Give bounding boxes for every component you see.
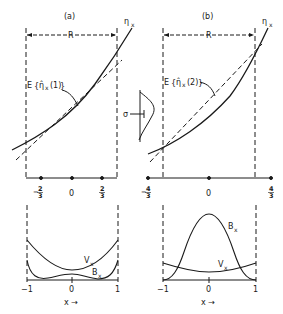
panel-b-estimate-hat: η̂	[176, 77, 181, 87]
panel-b-v-sub: x	[224, 264, 228, 271]
panel-a-top	[12, 28, 132, 180]
panel-b-bottom	[163, 205, 256, 283]
panel-a-estimate-line	[16, 60, 122, 160]
panel-a-range-label: R	[68, 31, 74, 40]
panel-b-brace-close: }	[198, 79, 203, 88]
panel-a-brace-close: }	[60, 82, 65, 91]
panel-a-xmin: −1	[21, 285, 33, 294]
panel-a-b-label: B	[92, 268, 98, 277]
panel-a-label: (a)	[64, 12, 75, 21]
panel-b-range-label: R	[206, 31, 212, 40]
panel-b-b-label: B	[228, 222, 234, 231]
panel-a-v-curve	[27, 240, 118, 270]
panel-b-estimate-prefix: E	[164, 78, 169, 87]
panel-b-eta-sub: x	[269, 21, 273, 28]
panel-b-true-curve	[148, 28, 268, 154]
panel-a-xmid: 0	[69, 285, 74, 294]
panel-a-xlabel: x →	[64, 298, 78, 307]
panel-a-eta-sub: x	[131, 21, 135, 28]
panel-a-tick-neg-den: 3	[38, 192, 43, 200]
panel-a-estimate-sub: x	[45, 84, 49, 91]
panel-a-bottom	[27, 205, 118, 283]
panel-b-b-curve	[163, 214, 256, 280]
sigma-label: σ	[123, 110, 128, 119]
panel-a-tick-pos-den: 3	[100, 192, 105, 200]
response-surface-diagram: (a) R η x E { η̂ x (1) } σ − 2 3 0 2 3 (…	[0, 0, 283, 314]
panel-a-v-sub: x	[90, 260, 94, 267]
panel-b-tick-pos-den: 3	[269, 192, 274, 200]
panel-b-tick-zero: 0	[206, 189, 211, 198]
panel-b-estimate-sub: x	[182, 81, 186, 88]
panel-a-eta-label: η	[124, 17, 129, 26]
panel-b-xmax: 1	[253, 285, 258, 294]
panel-b-xmid: 0	[206, 285, 211, 294]
panel-b-xlabel: x →	[201, 298, 215, 307]
panel-b-estimate-line	[150, 44, 262, 162]
panel-a-b-sub: x	[98, 272, 102, 279]
panel-b-eta-label: η	[262, 17, 267, 26]
panel-b-tick-neg-den: 3	[146, 192, 151, 200]
panel-a-xmax: 1	[115, 285, 120, 294]
sigma-distribution	[130, 90, 154, 142]
panel-a-estimate-hat: η̂	[39, 80, 44, 90]
panel-b-estimate-arg: (2)	[187, 78, 198, 87]
panel-b-label: (b)	[202, 12, 213, 21]
panel-a-estimate-prefix: E	[27, 81, 32, 90]
panel-b-top	[147, 28, 273, 180]
panel-b-xmin: −1	[157, 285, 169, 294]
panel-a-tick-zero: 0	[69, 189, 74, 198]
panel-b-b-sub: x	[234, 226, 238, 233]
